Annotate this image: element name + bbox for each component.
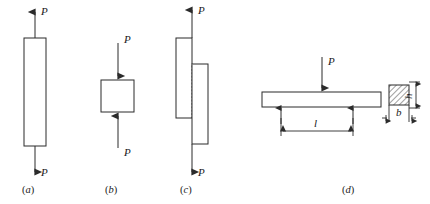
panel-letter-c: c bbox=[184, 184, 189, 195]
panel-a-axial-tension: P P (a) bbox=[22, 5, 48, 196]
height-dimension-label: h bbox=[402, 93, 414, 99]
tension-bar-body bbox=[24, 38, 46, 146]
panel-label-b: (b) bbox=[105, 184, 118, 196]
force-label-bottom-c: P bbox=[197, 166, 205, 178]
force-label-top-b: P bbox=[123, 33, 131, 45]
panel-label-a: (a) bbox=[22, 184, 35, 196]
panel-letter-d: d bbox=[346, 184, 352, 195]
panel-label-d: (d) bbox=[342, 184, 355, 196]
force-label-top-a: P bbox=[40, 5, 48, 17]
force-label-bottom-b: P bbox=[123, 146, 131, 158]
panel-b-axial-compression: P P (b) bbox=[101, 33, 134, 196]
panel-c-lap-joint-shear: P P (c) bbox=[176, 4, 208, 196]
figure-container: P P (a) P P (b) P P (c) bbox=[0, 0, 430, 204]
lap-plate-upper bbox=[176, 38, 192, 118]
force-label-top-c: P bbox=[197, 4, 205, 16]
panel-letter-b: b bbox=[109, 184, 114, 195]
figure-svg: P P (a) P P (b) P P (c) bbox=[0, 0, 430, 204]
panel-label-c: (c) bbox=[180, 184, 192, 196]
compression-block-body bbox=[101, 80, 134, 112]
force-label-beam: P bbox=[327, 55, 335, 67]
panel-d-beam-bending: P l h b bbox=[262, 55, 420, 196]
panel-letter-a: a bbox=[26, 184, 31, 195]
span-dimension-label: l bbox=[314, 117, 317, 129]
force-label-bottom-a: P bbox=[40, 166, 48, 178]
beam-body bbox=[262, 92, 381, 107]
width-dimension-label: b bbox=[396, 106, 402, 118]
lap-plate-lower bbox=[192, 64, 208, 144]
